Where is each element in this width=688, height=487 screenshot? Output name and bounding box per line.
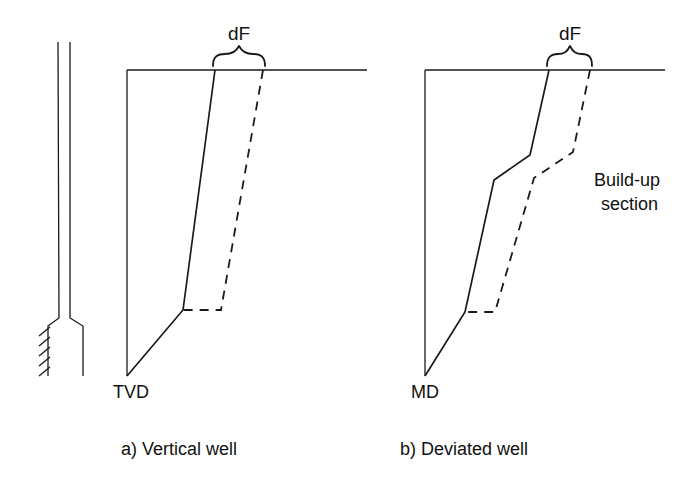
well-friction-diagram: dF TVD a) Vertical well dF Build-up sec	[0, 0, 688, 487]
df-brace-a	[213, 46, 265, 66]
wellbore-inner-left-wall	[48, 42, 59, 376]
panel-vertical-well: dF TVD a) Vertical well	[113, 23, 367, 459]
wellbore-schematic	[39, 42, 83, 376]
tvd-axis-label: TVD	[113, 382, 149, 402]
panel-deviated-well: dF Build-up section MD b) Deviated well	[400, 23, 665, 459]
buildup-annotation-line1: Build-up	[594, 170, 660, 190]
caption-vertical-well: a) Vertical well	[121, 439, 237, 459]
df-label-b: dF	[559, 23, 581, 44]
solid-profile-a	[127, 70, 215, 376]
df-brace-b	[547, 46, 592, 66]
solid-profile-b	[425, 70, 549, 376]
md-axis-label: MD	[411, 382, 439, 402]
dashed-profile-a	[183, 70, 263, 310]
wellbore-inner-right-wall	[70, 42, 83, 376]
dashed-profile-b	[465, 70, 590, 312]
df-label-a: dF	[228, 23, 250, 44]
buildup-annotation-line2: section	[601, 194, 658, 214]
figure-root: dF TVD a) Vertical well dF Build-up sec	[0, 0, 688, 487]
caption-deviated-well: b) Deviated well	[400, 439, 528, 459]
